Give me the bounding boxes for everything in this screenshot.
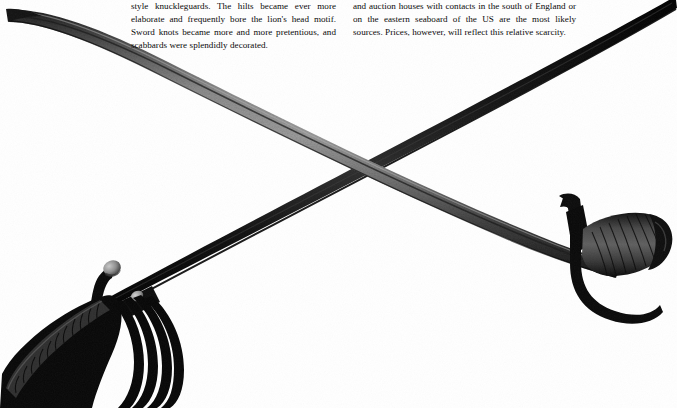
- left-text-column: style knuckleguards. The hilts became ev…: [131, 0, 336, 52]
- swords-illustration-svg: [0, 0, 677, 408]
- crossed-swords-photograph: [0, 0, 677, 408]
- right-column-paragraph: and auction houses with contacts in the …: [353, 0, 576, 39]
- left-column-paragraph: style knuckleguards. The hilts became ev…: [131, 0, 336, 52]
- scanned-book-page: style knuckleguards. The hilts became ev…: [0, 0, 677, 408]
- scan-grain: [0, 0, 677, 408]
- right-text-column: and auction houses with contacts in the …: [353, 0, 576, 39]
